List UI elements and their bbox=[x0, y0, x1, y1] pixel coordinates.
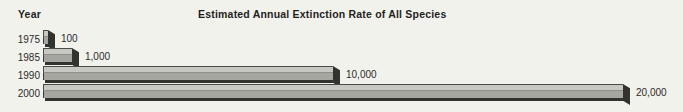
bar-bottom-shadow bbox=[45, 98, 629, 101]
value-label: 10,000 bbox=[346, 66, 377, 84]
bar-end-cap bbox=[623, 84, 630, 105]
bar-front-face bbox=[43, 54, 72, 62]
bar-1990 bbox=[43, 66, 333, 83]
value-label: 100 bbox=[61, 30, 78, 48]
y-axis-header-label: Year bbox=[18, 8, 41, 20]
year-label: 2000 bbox=[0, 84, 40, 103]
bar-2000 bbox=[43, 84, 623, 101]
year-label: 1990 bbox=[0, 66, 40, 85]
year-label: 1985 bbox=[0, 48, 40, 67]
bar-1975 bbox=[43, 30, 48, 47]
value-label: 20,000 bbox=[636, 84, 667, 102]
extinction-rate-chart: Year Estimated Annual Extinction Rate of… bbox=[0, 0, 683, 112]
chart-title: Estimated Annual Extinction Rate of All … bbox=[198, 8, 446, 20]
bar-bottom-shadow bbox=[45, 80, 339, 83]
bar-front-face bbox=[43, 90, 623, 98]
value-label: 1,000 bbox=[85, 48, 110, 66]
bar-front-face bbox=[43, 36, 48, 44]
year-label: 1975 bbox=[0, 30, 40, 49]
bar-1985 bbox=[43, 48, 72, 65]
bar-front-face bbox=[43, 72, 333, 80]
bar-row-2000: 2000 20,000 bbox=[0, 84, 683, 106]
